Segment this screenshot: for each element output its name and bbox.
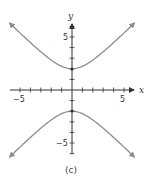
upper-branch-left <box>10 23 72 69</box>
y-tick-label-pos5: 5 <box>63 33 68 42</box>
lower-branch-right <box>72 111 134 157</box>
figure-caption: (c) <box>65 165 77 175</box>
y-tick-label-neg5: −5 <box>56 139 68 148</box>
lower-vertex <box>70 109 73 112</box>
x-tick-label-neg5: −5 <box>13 95 25 104</box>
lower-branch-left <box>10 111 72 157</box>
x-tick-label-pos5: 5 <box>120 95 125 104</box>
x-axis-label: x <box>139 85 144 95</box>
axes <box>10 24 134 154</box>
upper-branch-right <box>72 23 134 69</box>
upper-vertex <box>70 67 73 70</box>
y-axis-label: y <box>67 11 74 21</box>
hyperbola-chart: y x −5 5 5 −5 (c) <box>0 0 151 179</box>
